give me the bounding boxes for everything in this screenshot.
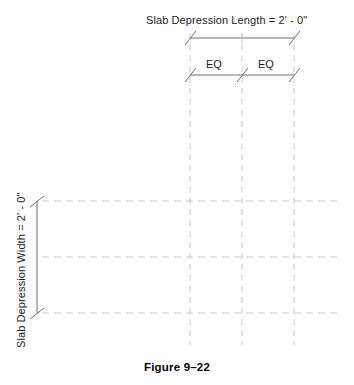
slab-depression-diagram: Slab Depression Length = 2' - 0" EQ EQ S… (0, 0, 354, 385)
construction-grid (42, 33, 342, 345)
overall-length-label: Slab Depression Length = 2' - 0" (146, 14, 307, 26)
grid-horizontal-lines (42, 201, 342, 313)
overall-width-dimension: Slab Depression Width = 2' - 0" (15, 192, 44, 348)
eq-label-left: EQ (206, 58, 222, 70)
overall-width-label: Slab Depression Width = 2' - 0" (15, 192, 27, 348)
figure-caption: Figure 9–22 (144, 361, 210, 373)
eq-label-right: EQ (258, 58, 274, 70)
overall-length-dimension: Slab Depression Length = 2' - 0" (146, 14, 307, 45)
figure-container: Slab Depression Length = 2' - 0" EQ EQ S… (0, 0, 354, 385)
grid-vertical-lines (190, 33, 294, 345)
